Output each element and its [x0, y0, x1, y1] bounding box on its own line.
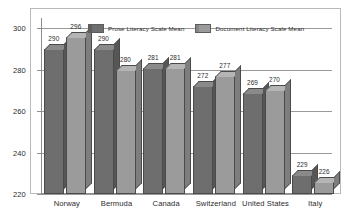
chart-legend: Prose Literacy Scale MeanDocument Litera… [88, 24, 304, 33]
y-axis-tick-label: 300 [0, 24, 26, 33]
bar-side-face [86, 26, 92, 189]
bar-value-label: 290 [41, 35, 67, 42]
bar-body [44, 49, 64, 194]
bar-value-label: 290 [91, 35, 117, 42]
x-axis-tick-label: Canada [153, 199, 180, 208]
x-axis-tick-label: Switzerland [196, 199, 236, 208]
y-axis-tick-label: 240 [0, 148, 26, 157]
bar-body [265, 90, 285, 194]
bar-body [292, 175, 312, 194]
gridline [42, 194, 332, 195]
y-axis-tick-label: 220 [0, 190, 26, 199]
x-axis-tick-label: Norway [54, 199, 80, 208]
bar-group [143, 18, 185, 194]
y-axis-tick-label: 260 [0, 107, 26, 116]
legend-entry-document[interactable]: Document Literacy Scale Mean [195, 24, 304, 33]
bar-body [243, 93, 263, 194]
legend-swatch [195, 24, 211, 33]
bar-body [66, 37, 86, 194]
bar-value-label: 280 [113, 56, 139, 63]
x-axis-tick-label: Bermuda [101, 199, 133, 208]
bar-body [94, 49, 114, 194]
bar-value-label: 270 [262, 76, 288, 83]
bar-group [44, 18, 86, 194]
bar-group [243, 18, 285, 194]
bar-body [193, 86, 213, 194]
bar-value-label: 296 [63, 23, 89, 30]
legend-entry-prose[interactable]: Prose Literacy Scale Mean [88, 24, 184, 33]
y-axis-tick-label: 280 [0, 65, 26, 74]
bar-side-face [285, 79, 291, 189]
bar-body [314, 182, 334, 194]
bar-value-label: 277 [212, 62, 238, 69]
bar-group [94, 18, 136, 194]
bar-chart: 220240260280300 Prose Literacy Scale Mea… [0, 0, 347, 223]
bar-body [165, 68, 185, 194]
bar-value-label: 226 [311, 168, 337, 175]
bar-body [215, 76, 235, 194]
legend-label: Document Literacy Scale Mean [215, 25, 304, 32]
bar-body [116, 70, 136, 194]
y-axis-tick-mark [37, 194, 42, 195]
bar-value-label: 272 [190, 72, 216, 79]
x-axis-tick-label: Italy [308, 199, 322, 208]
bar-side-face [136, 59, 142, 189]
bar-group [193, 18, 235, 194]
bar-value-label: 281 [162, 54, 188, 61]
legend-swatch [88, 24, 104, 33]
legend-label: Prose Literacy Scale Mean [108, 25, 184, 32]
x-axis-tick-label: United States [242, 199, 289, 208]
bar-body [143, 68, 163, 194]
